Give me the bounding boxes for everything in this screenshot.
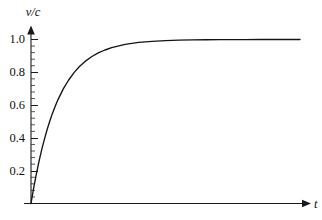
x-axis-title: t	[314, 197, 318, 211]
y-tick-label-1.0: 1.0	[9, 32, 25, 46]
y-tick-label-0.6: 0.6	[9, 98, 25, 112]
y-axis-minor-ticks	[31, 46, 35, 197]
y-axis-arrow-icon	[27, 26, 35, 35]
y-tick-label-0.2: 0.2	[9, 164, 25, 178]
y-tick-label-0.4: 0.4	[9, 131, 25, 145]
data-curve	[31, 40, 300, 204]
chart-figure: 1.0 0.8 0.6 0.4 0.2 v/c t	[0, 0, 322, 220]
y-tick-label-0.8: 0.8	[9, 65, 25, 79]
chart-canvas: 1.0 0.8 0.6 0.4 0.2 v/c t	[0, 0, 322, 220]
y-axis-title: v/c	[26, 5, 41, 19]
x-axis-arrow-icon	[302, 200, 311, 208]
